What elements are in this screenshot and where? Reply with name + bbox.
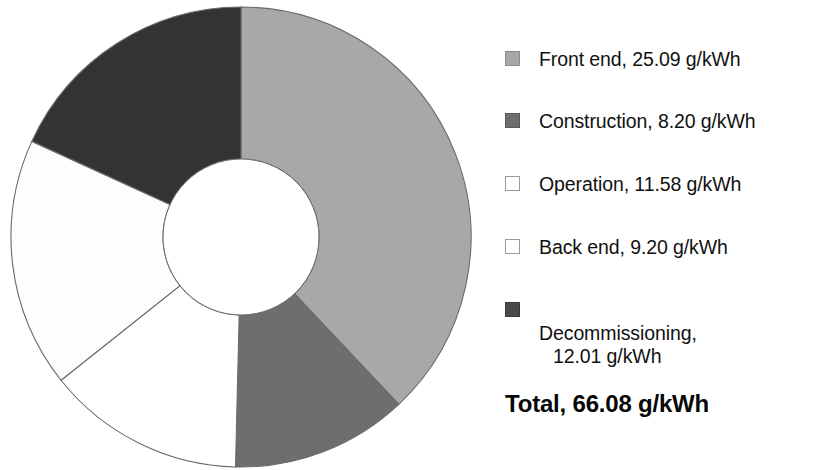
legend-label-construction: Construction, 8.20 g/kWh: [539, 110, 756, 133]
legend-swatch-decommissioning: [505, 302, 520, 317]
total-label: Total, 66.08 g/kWh: [505, 390, 709, 418]
legend-label-back-end: Back end, 9.20 g/kWh: [539, 236, 728, 259]
legend-item-operation[interactable]: Operation, 11.58 g/kWh: [505, 173, 741, 196]
legend-swatch-back-end: [505, 239, 520, 254]
legend-swatch-front-end: [505, 51, 520, 66]
legend-swatch-operation: [505, 176, 520, 191]
donut-chart-svg: [6, 4, 476, 470]
legend-item-back-end[interactable]: Back end, 9.20 g/kWh: [505, 236, 728, 259]
legend-swatch-construction: [505, 113, 520, 128]
legend-label-decommissioning: Decommissioning, 12.01 g/kWh: [539, 299, 697, 391]
legend-label-operation: Operation, 11.58 g/kWh: [539, 173, 741, 196]
legend-label-decommissioning-line1: Decommissioning,: [539, 322, 697, 344]
donut-chart: [6, 4, 476, 470]
legend-item-construction[interactable]: Construction, 8.20 g/kWh: [505, 110, 756, 133]
legend-label-decommissioning-line2: 12.01 g/kWh: [539, 345, 697, 368]
legend-item-decommissioning[interactable]: Decommissioning, 12.01 g/kWh: [505, 299, 697, 391]
legend-item-front-end[interactable]: Front end, 25.09 g/kWh: [505, 48, 741, 71]
emissions-breakdown-figure: Front end, 25.09 g/kWh Construction, 8.2…: [0, 0, 839, 470]
chart-legend: Front end, 25.09 g/kWh Construction, 8.2…: [505, 0, 839, 470]
donut-center-hole: [163, 159, 319, 315]
legend-label-front-end: Front end, 25.09 g/kWh: [539, 48, 741, 71]
